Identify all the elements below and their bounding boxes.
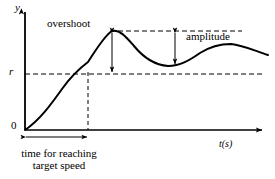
rise-time-label: time for reachingtarget speed xyxy=(4,148,114,171)
y-axis-label: y xyxy=(15,2,20,14)
origin-label: 0 xyxy=(11,120,17,132)
rise-time-label-line1: time for reaching xyxy=(21,147,97,159)
step-response-figure: y r 0 t(s) overshoot amplitude time for … xyxy=(0,0,275,179)
rise-time-label-line2: target speed xyxy=(4,160,114,172)
overshoot-label: overshoot xyxy=(47,18,90,30)
amplitude-label: amplitude xyxy=(186,31,230,43)
reference-level-label: r xyxy=(9,66,13,78)
response-curve xyxy=(25,31,268,130)
x-axis-label: t(s) xyxy=(219,139,232,150)
